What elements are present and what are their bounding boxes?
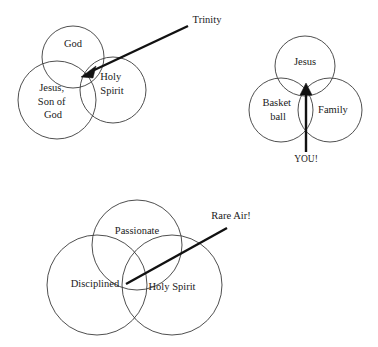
circle-god — [42, 26, 104, 88]
callout-line-trinity — [90, 26, 188, 72]
diagram-canvas-root: God Jesus, Son of God Holy Spirit Trinit… — [0, 0, 378, 347]
diagram-you: Jesus Basket ball Family YOU! — [249, 36, 362, 164]
label-jesus-son-of-god: Jesus, Son of God — [38, 82, 68, 120]
label-holy-spirit-2: Holy Spirit — [149, 281, 196, 292]
diagram-rare-air: Passionate Disciplined Holy Spirit Rare … — [47, 200, 251, 335]
circle-passionate — [92, 200, 182, 290]
label-passionate: Passionate — [115, 225, 160, 236]
label-disciplined: Disciplined — [71, 278, 120, 289]
label-family: Family — [318, 104, 349, 115]
label-god: God — [64, 38, 83, 49]
callout-label-rare-air: Rare Air! — [211, 210, 250, 221]
label-basketball: Basket ball — [262, 97, 293, 122]
diagram-trinity: God Jesus, Son of God Holy Spirit Trinit… — [18, 14, 222, 139]
label-holy-spirit: Holy Spirit — [100, 71, 124, 96]
label-jesus: Jesus — [294, 56, 316, 67]
venn-diagrams-figure: God Jesus, Son of God Holy Spirit Trinit… — [0, 0, 378, 347]
callout-label-you: YOU! — [294, 154, 318, 164]
callout-label-trinity: Trinity — [193, 14, 223, 25]
